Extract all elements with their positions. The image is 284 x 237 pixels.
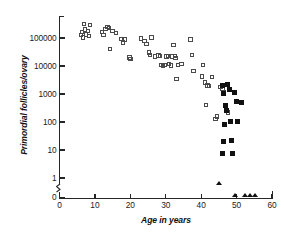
data-point-open-square — [210, 75, 214, 79]
y-axis-title: Primordial follicles/ovary — [19, 25, 29, 185]
x-tick-label-50: 50 — [225, 201, 249, 209]
y-tick-label-1: 1 — [52, 174, 57, 182]
y-tick-label-1000: 1000 — [38, 90, 56, 98]
data-point-filled-square — [235, 119, 240, 124]
y-axis-line — [59, 16, 60, 184]
data-point-open-square — [82, 22, 86, 26]
data-point-open-square — [215, 114, 219, 118]
y-tick-10000 — [59, 65, 65, 66]
data-point-open-square — [191, 69, 195, 73]
data-point-open-square — [128, 57, 132, 61]
data-point-open-square — [101, 33, 105, 37]
data-point-open-square — [179, 62, 183, 66]
data-point-filled-square — [228, 119, 233, 124]
data-point-filled-square — [222, 122, 227, 127]
y-tick-label-100: 100 — [43, 118, 57, 126]
data-point-open-square — [87, 34, 91, 38]
data-point-open-square — [108, 47, 112, 51]
data-point-open-square — [200, 74, 204, 78]
data-point-filled-square — [234, 99, 239, 104]
data-point-open-square — [158, 54, 162, 58]
data-point-open-square — [188, 37, 192, 41]
x-tick-label-10: 10 — [83, 201, 107, 209]
x-tick-label-60: 60 — [260, 201, 284, 209]
data-point-filled-triangle — [252, 193, 258, 197]
x-axis-title: Age in years — [59, 215, 273, 225]
x-tick-20 — [130, 194, 131, 199]
data-point-open-square — [169, 63, 173, 67]
x-tick-60 — [271, 194, 272, 199]
data-point-filled-square — [221, 139, 226, 144]
data-point-open-square — [122, 37, 126, 41]
x-tick-0 — [59, 194, 60, 199]
y-tick-100 — [59, 121, 65, 122]
data-point-filled-square — [239, 100, 244, 105]
x-tick-label-30: 30 — [154, 201, 178, 209]
data-point-open-square — [204, 103, 208, 107]
data-point-open-square — [162, 63, 166, 67]
plot-area: 1000001000010001001010 0102030405060 Pri… — [0, 0, 284, 237]
y-tick-label-10: 10 — [47, 146, 56, 154]
data-point-open-square — [207, 84, 211, 88]
data-point-filled-triangle — [232, 193, 238, 197]
y-tick-10 — [59, 149, 65, 150]
data-point-filled-square — [230, 151, 235, 156]
y-axis-top-cap — [59, 16, 64, 17]
data-point-filled-square — [220, 151, 225, 156]
data-point-filled-square — [229, 138, 234, 143]
y-tick-100000 — [59, 37, 65, 38]
data-point-open-square — [174, 77, 178, 81]
chart-figure: 1000001000010001001010 0102030405060 Pri… — [0, 0, 284, 237]
data-point-open-square — [144, 42, 148, 46]
x-tick-30 — [165, 194, 166, 199]
y-tick-1 — [59, 177, 65, 178]
y-tick-label-10000: 10000 — [34, 62, 57, 70]
x-tick-10 — [94, 194, 95, 199]
data-point-open-square — [148, 53, 152, 57]
data-point-open-square — [190, 53, 194, 57]
x-tick-label-40: 40 — [189, 201, 213, 209]
data-point-open-square — [114, 31, 118, 35]
data-point-filled-square — [221, 91, 226, 96]
x-tick-40 — [201, 194, 202, 199]
data-point-open-square — [88, 23, 92, 27]
data-point-filled-square — [232, 90, 237, 95]
x-tick-label-0: 0 — [48, 201, 72, 209]
data-point-open-square — [149, 35, 153, 39]
y-tick-1000 — [59, 93, 65, 94]
y-tick-label-100000: 100000 — [29, 34, 56, 42]
data-point-open-square — [173, 56, 177, 60]
data-point-open-square — [171, 43, 175, 47]
data-point-filled-triangle — [216, 181, 222, 185]
data-point-open-square — [201, 63, 205, 67]
x-tick-label-20: 20 — [118, 201, 142, 209]
data-point-filled-square — [224, 108, 229, 113]
